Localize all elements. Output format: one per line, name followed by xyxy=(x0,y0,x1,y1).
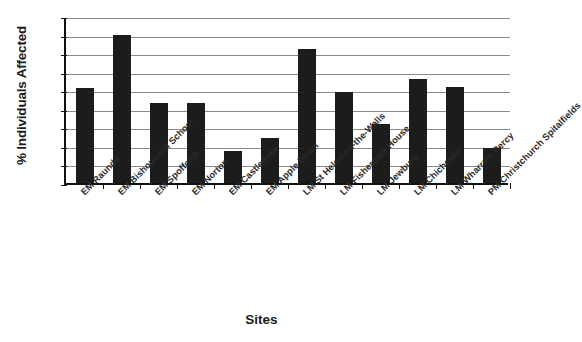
y-axis-title: % Individuals Affected xyxy=(14,1,29,191)
bar xyxy=(187,103,205,183)
x-axis-tick-mark xyxy=(362,183,364,189)
bar xyxy=(76,88,94,183)
x-axis-tick-mark xyxy=(473,183,475,189)
bar-slot xyxy=(214,16,251,183)
x-axis-tick-mark xyxy=(399,183,401,189)
bar xyxy=(446,87,464,183)
x-axis-tick-mark xyxy=(140,183,142,189)
x-axis-tick-mark xyxy=(288,183,290,189)
x-axis-tick-mark xyxy=(436,183,438,189)
x-axis-tick-mark xyxy=(325,183,327,189)
x-axis-tick-mark xyxy=(177,183,179,189)
y-axis-tick-mark xyxy=(61,185,67,186)
x-axis-tick-mark xyxy=(103,183,105,189)
bar xyxy=(335,92,353,183)
x-axis-tick-mark xyxy=(214,183,216,189)
bar-slot xyxy=(103,16,140,183)
bar-slot xyxy=(66,16,103,183)
x-axis-labels: EM RaundsEM Bishopsmill SchoolEM Spoffor… xyxy=(64,190,508,302)
x-axis-title: Sites xyxy=(0,312,523,327)
x-axis-tick-mark xyxy=(510,183,512,189)
x-axis-tick-mark xyxy=(251,183,253,189)
